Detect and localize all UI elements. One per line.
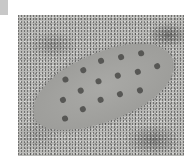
fish-spot — [137, 49, 145, 57]
corner-marker — [0, 0, 8, 15]
fish-spot — [134, 68, 142, 76]
flatfish-photo — [18, 15, 184, 156]
fish-spot — [117, 53, 125, 61]
fish-spot — [77, 87, 85, 95]
fish-spot — [59, 96, 67, 104]
fish-spot — [136, 86, 144, 94]
fish-spot — [116, 90, 124, 98]
fish-spot — [97, 57, 105, 65]
fish-spot — [79, 105, 87, 113]
fish-spot — [79, 66, 87, 74]
fish-spot — [61, 115, 69, 123]
fish-spot — [95, 77, 103, 85]
fish-spot — [62, 76, 70, 84]
fish-spot — [153, 62, 161, 70]
fish-spot — [97, 96, 105, 104]
fish-spot — [114, 72, 122, 80]
